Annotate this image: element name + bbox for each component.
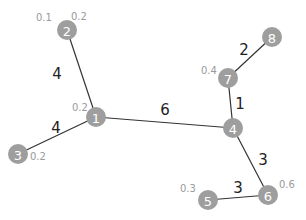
node-value-label: 0.4 <box>201 65 217 76</box>
node-value-label: 0.1 <box>36 12 52 23</box>
node-1[interactable]: 1 <box>86 107 106 127</box>
node-id: 5 <box>204 194 212 209</box>
edges <box>18 30 272 200</box>
node-id: 4 <box>229 122 237 137</box>
node-id: 8 <box>268 31 276 46</box>
edge-weight-label: 3 <box>258 151 268 169</box>
node-id: 7 <box>224 72 232 87</box>
node-value-label: 0.6 <box>279 179 295 190</box>
node-2[interactable]: 2 <box>57 20 77 40</box>
node-7[interactable]: 7 <box>218 68 238 88</box>
node-id: 2 <box>63 24 71 39</box>
edge-weight-label: 4 <box>52 65 62 83</box>
node-id: 6 <box>264 189 272 204</box>
node-4[interactable]: 4 <box>223 118 243 138</box>
node-8[interactable]: 8 <box>262 27 282 47</box>
edge-weight-label: 1 <box>235 95 245 113</box>
node-value-label: 0.2 <box>72 102 88 113</box>
node-id: 3 <box>14 148 22 163</box>
node-value-label: 0.2 <box>71 11 87 22</box>
node-id: 1 <box>92 111 100 126</box>
node-value-label: 0.2 <box>30 151 46 162</box>
edge-weight-label: 3 <box>233 179 243 197</box>
node-6[interactable]: 6 <box>258 185 278 205</box>
edge-weight-label: 4 <box>51 119 61 137</box>
weighted-graph: 4461233 12345678 0.10.20.20.20.40.30.6 <box>0 0 306 220</box>
edge-weight-label: 6 <box>160 101 170 119</box>
node-3[interactable]: 3 <box>8 144 28 164</box>
edge-weight-label: 2 <box>239 41 249 59</box>
node-value-label: 0.3 <box>180 183 196 194</box>
node-5[interactable]: 5 <box>198 190 218 210</box>
